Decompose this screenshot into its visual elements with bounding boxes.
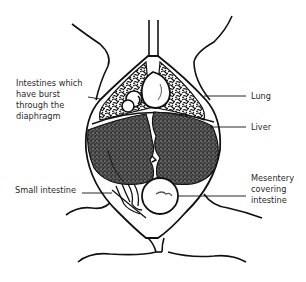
right-upper-limb-outline xyxy=(194,16,232,100)
right-hindlimb-outline xyxy=(168,252,246,262)
label-intestines-burst-through-diaphragm: Intestines which have burst through the … xyxy=(16,78,96,122)
label-mesentery-covering-intestine: Mesentery covering intestine xyxy=(251,173,306,206)
left-hindlimb-outline xyxy=(78,252,156,262)
label-small-intestine: Small intestine xyxy=(15,185,76,196)
pelvic-stalk xyxy=(148,238,164,252)
anatomy-diagram xyxy=(0,0,306,282)
mesentery-intestine xyxy=(142,178,178,214)
left-lower-limb-outline xyxy=(66,200,112,215)
label-liver: Liver xyxy=(251,122,271,133)
label-lung: Lung xyxy=(251,91,271,102)
